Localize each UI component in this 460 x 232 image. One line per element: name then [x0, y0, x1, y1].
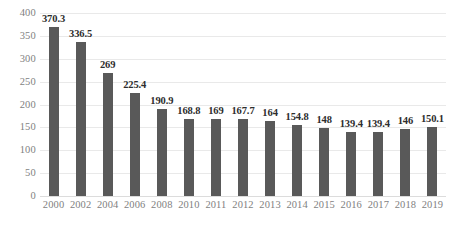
x-axis-tick-label: 2006 [124, 200, 145, 211]
y-axis-tick-label: 150 [0, 122, 36, 133]
bar[interactable] [400, 129, 410, 196]
x-axis-tick-label: 2018 [395, 200, 416, 211]
x-axis-tick-label: 2002 [70, 200, 91, 211]
bar-value-label: 139.4 [340, 119, 363, 130]
bar-value-label: 148 [316, 115, 331, 126]
x-axis-tick-label: 2015 [313, 200, 334, 211]
bar-value-label: 190.9 [150, 96, 173, 107]
y-axis-tick-label: 350 [0, 31, 36, 42]
x-axis-tick-label: 2011 [205, 200, 226, 211]
bar[interactable] [373, 132, 383, 196]
bar[interactable] [319, 128, 329, 196]
bar[interactable] [103, 73, 113, 196]
bar[interactable] [292, 125, 302, 196]
bar-series: 370.3336.5269225.4190.9168.8169167.71641… [40, 13, 446, 196]
bar-chart: 050100150200250300350400 370.3336.526922… [0, 0, 460, 232]
bar-slot: 150.1 [419, 13, 446, 196]
bar-slot: 168.8 [175, 13, 202, 196]
bar-slot: 139.4 [365, 13, 392, 196]
bar[interactable] [49, 27, 59, 196]
bar-slot: 336.5 [67, 13, 94, 196]
bar-slot: 370.3 [40, 13, 67, 196]
x-axis-tick-label: 2013 [259, 200, 280, 211]
x-axis-tick-label: 2016 [341, 200, 362, 211]
x-axis-tick-label: 2012 [232, 200, 253, 211]
y-axis-tick-label: 0 [0, 191, 36, 202]
bar-value-label: 269 [100, 60, 115, 71]
bar-slot: 139.4 [338, 13, 365, 196]
y-axis-tick-label: 50 [0, 168, 36, 179]
bar-value-label: 225.4 [123, 80, 146, 91]
x-axis-tick-label: 2017 [368, 200, 389, 211]
x-axis-tick-label: 2014 [286, 200, 307, 211]
bar-value-label: 139.4 [367, 119, 390, 130]
y-axis: 050100150200250300350400 [0, 0, 38, 232]
bar-value-label: 370.3 [42, 14, 65, 25]
bar-slot: 225.4 [121, 13, 148, 196]
bar-value-label: 154.8 [286, 112, 309, 123]
bar-slot: 167.7 [229, 13, 256, 196]
bar[interactable] [265, 121, 275, 196]
bar-value-label: 146 [398, 116, 413, 127]
x-axis-tick-label: 2010 [178, 200, 199, 211]
bar[interactable] [346, 132, 356, 196]
x-axis-tick-label: 2000 [43, 200, 64, 211]
bar-slot: 154.8 [284, 13, 311, 196]
y-axis-tick-label: 250 [0, 76, 36, 87]
bar[interactable] [76, 42, 86, 196]
bar-value-label: 167.7 [231, 106, 254, 117]
gridline [40, 196, 446, 197]
bar-slot: 148 [311, 13, 338, 196]
x-axis-tick-label: 2004 [97, 200, 118, 211]
bar-slot: 269 [94, 13, 121, 196]
x-axis-tick-label: 2008 [151, 200, 172, 211]
bar-slot: 146 [392, 13, 419, 196]
x-axis-tick-label: 2019 [422, 200, 443, 211]
bar[interactable] [427, 127, 437, 196]
bar[interactable] [130, 93, 140, 196]
x-axis: 2000200220042006200820102011201220132014… [40, 200, 446, 220]
bar-value-label: 169 [208, 106, 223, 117]
plot-area: 370.3336.5269225.4190.9168.8169167.71641… [40, 13, 446, 196]
bar-value-label: 168.8 [177, 106, 200, 117]
bar-value-label: 336.5 [69, 29, 92, 40]
y-axis-tick-label: 400 [0, 8, 36, 19]
bar[interactable] [157, 109, 167, 196]
bar-slot: 190.9 [148, 13, 175, 196]
bar-slot: 164 [257, 13, 284, 196]
bar-value-label: 164 [262, 108, 277, 119]
bar[interactable] [184, 119, 194, 196]
y-axis-tick-label: 200 [0, 99, 36, 110]
bar-value-label: 150.1 [421, 114, 444, 125]
y-axis-tick-label: 300 [0, 54, 36, 65]
bar[interactable] [211, 119, 221, 196]
y-axis-tick-label: 100 [0, 145, 36, 156]
bar[interactable] [238, 119, 248, 196]
bar-slot: 169 [202, 13, 229, 196]
